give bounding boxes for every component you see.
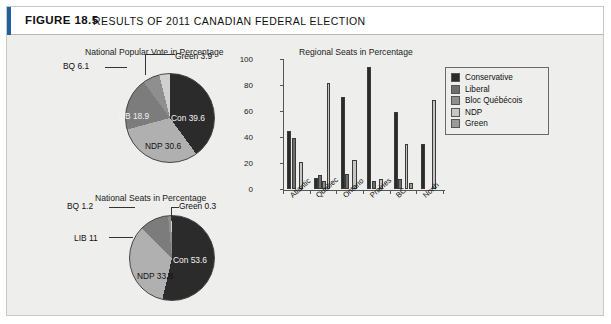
x-axis-tick-mark — [390, 190, 391, 194]
x-axis-tick-mark — [283, 190, 284, 194]
legend-swatch — [451, 108, 460, 117]
bar — [292, 138, 296, 189]
legend-item: NDP — [451, 107, 543, 119]
y-axis-tick-label: 0 — [227, 185, 257, 194]
legend-item: Green — [451, 118, 543, 130]
bar — [432, 100, 437, 189]
pie-slice-label: LIB 11 — [74, 233, 98, 243]
x-axis-tick-mark — [310, 190, 311, 194]
legend-swatch — [451, 96, 460, 105]
y-axis-tick-label: 20 — [227, 159, 257, 168]
bar-group — [421, 59, 440, 189]
legend-label: Conservative — [465, 73, 513, 82]
figure-header: FIGURE 18.5 RESULTS OF 2011 CANADIAN FED… — [7, 7, 603, 35]
legend-label: Liberal — [465, 85, 490, 94]
figure-label: FIGURE 18.5 — [25, 14, 98, 26]
legend-swatch — [451, 73, 460, 82]
bar — [367, 67, 371, 189]
bar — [405, 144, 409, 189]
legend-swatch — [451, 85, 460, 94]
pie-slice-label: Green 0.3 — [179, 201, 216, 211]
pie-slice-label: BQ 1.2 — [67, 201, 93, 211]
y-axis-tick-mark — [280, 163, 284, 164]
y-axis-tick-label: 40 — [227, 133, 257, 142]
leader-line — [171, 207, 179, 208]
pie-slice-label: Green 3.9 — [175, 51, 212, 61]
legend-item: Bloc Québécois — [451, 95, 543, 107]
pie-slice-label: Con 39.6 — [171, 113, 205, 123]
bar — [421, 144, 426, 189]
bar — [287, 131, 291, 189]
bar — [409, 183, 413, 189]
x-axis-tick-mark — [416, 190, 417, 194]
y-axis-tick-label: 60 — [227, 107, 257, 116]
bar-group — [314, 59, 333, 189]
legend-swatch — [451, 119, 460, 128]
pie-slice-label: NDP 33.8 — [137, 271, 173, 281]
pie-slice-label: BQ 6.1 — [63, 61, 89, 71]
bar — [341, 97, 345, 189]
leader-line — [171, 207, 172, 221]
x-axis-tick-mark — [363, 190, 364, 194]
pie-chart-national-seats: Con 53.6NDP 33.8LIB 11BQ 1.2Green 0.3 — [129, 215, 215, 301]
leader-line — [109, 237, 133, 238]
y-axis-tick-mark — [280, 111, 284, 112]
bar-group — [394, 59, 413, 189]
bar-group — [367, 59, 386, 189]
leader-line — [145, 55, 146, 75]
header-accent-rule — [7, 7, 11, 35]
bar-group — [287, 59, 306, 189]
leader-line — [105, 67, 127, 68]
legend-item: Liberal — [451, 84, 543, 96]
x-axis-tick-mark — [443, 190, 444, 194]
chart-legend: ConservativeLiberalBloc QuébécoisNDPGree… — [445, 67, 549, 135]
x-axis-tick-mark — [336, 190, 337, 194]
pie-slice-label: NDP 30.6 — [145, 141, 181, 151]
leader-line — [145, 54, 175, 55]
bar-chart-regional-seats: 020406080100AtlanticQuebecOntarioPrairie… — [257, 43, 457, 243]
legend-label: Bloc Québécois — [465, 96, 522, 105]
pie-chart-popular-vote: Con 39.6NDP 30.6LIB 18.9BQ 6.1Green 3.9 — [125, 73, 215, 163]
y-axis-tick-label: 100 — [227, 55, 257, 64]
pie-slice-label: Con 53.6 — [173, 255, 207, 265]
leader-line — [109, 207, 135, 208]
pie-slice-label: LIB 18.9 — [118, 111, 149, 121]
plot-area — [283, 59, 443, 189]
bar-group — [341, 59, 360, 189]
y-axis-tick-mark — [280, 59, 284, 60]
legend-item: Conservative — [451, 72, 543, 84]
figure-container: FIGURE 18.5 RESULTS OF 2011 CANADIAN FED… — [6, 6, 604, 316]
bar — [394, 112, 398, 189]
bar — [327, 83, 331, 189]
legend-label: NDP — [465, 108, 482, 117]
legend-label: Green — [465, 119, 488, 128]
figure-title: RESULTS OF 2011 CANADIAN FEDERAL ELECTIO… — [93, 15, 366, 27]
y-axis-tick-mark — [280, 137, 284, 138]
y-axis-tick-label: 80 — [227, 81, 257, 90]
x-axis — [283, 190, 445, 191]
bar — [314, 178, 318, 189]
y-axis-tick-mark — [280, 85, 284, 86]
